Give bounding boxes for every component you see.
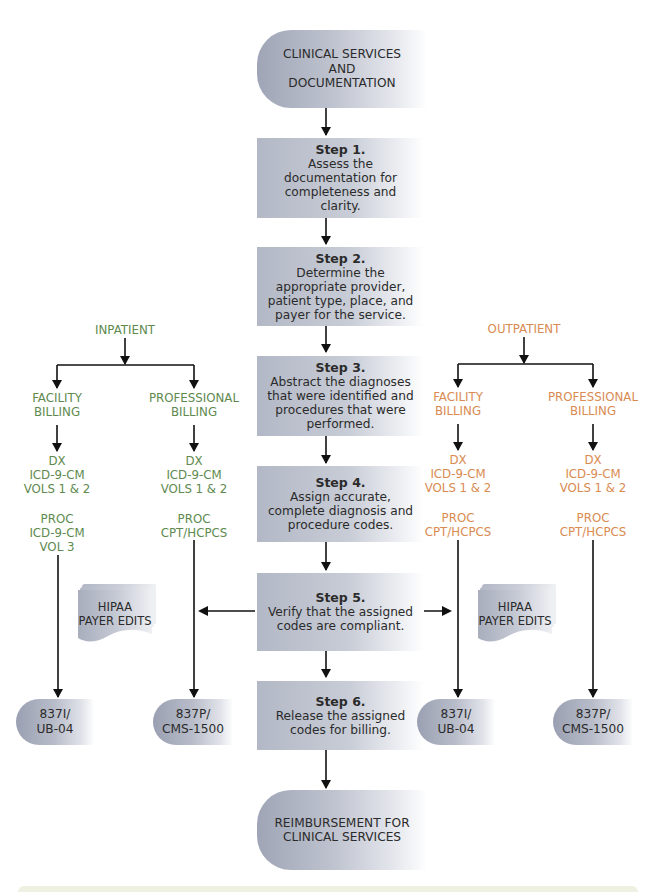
outpatient-837i-ub04-terminal: 837I/ UB-04: [417, 699, 495, 745]
connector-lines: [0, 0, 655, 892]
step-title: Step 5.: [315, 591, 365, 605]
inpatient-facility-dx: DX ICD-9-CM VOLS 1 & 2: [12, 454, 102, 497]
form-line: CMS-1500: [562, 722, 624, 737]
step-text: procedures that were: [275, 403, 405, 417]
end-line: CLINICAL SERVICES: [274, 830, 409, 845]
label-line: CPT/HCPCS: [149, 526, 239, 540]
label-line: FACILITY: [12, 391, 102, 405]
label-line: ICD-9-CM: [12, 468, 102, 482]
start-line: CLINICAL SERVICES: [283, 47, 401, 62]
step-text: performed.: [307, 417, 375, 431]
label-line: DX: [149, 454, 239, 468]
start-terminal: CLINICAL SERVICES AND DOCUMENTATION: [257, 30, 427, 108]
label-line: BILLING: [12, 405, 102, 419]
label-line: BILLING: [144, 405, 244, 419]
step-4-box: Step 4. Assign accurate, complete diagno…: [257, 466, 424, 542]
form-line: 837P/: [162, 707, 224, 722]
form-line: 837P/: [562, 707, 624, 722]
step-text: complete diagnosis and: [268, 504, 413, 518]
bottom-caption-band: [18, 886, 638, 892]
step-text: completeness and: [285, 185, 397, 199]
step-text: that were identified and: [267, 389, 413, 403]
inpatient-professional-dx: DX ICD-9-CM VOLS 1 & 2: [149, 454, 239, 497]
step-title: Step 6.: [315, 695, 365, 709]
step-title: Step 3.: [315, 361, 365, 375]
step-title: Step 1.: [315, 143, 365, 157]
step-text: Abstract the diagnoses: [270, 375, 411, 389]
doc-line: HIPAA: [479, 600, 552, 614]
inpatient-837i-ub04-terminal: 837I/ UB-04: [16, 699, 94, 745]
label-line: PROFESSIONAL: [144, 391, 244, 405]
form-line: UB-04: [36, 722, 73, 737]
step-title: Step 2.: [315, 252, 365, 266]
start-line: AND: [283, 62, 401, 77]
label-line: DX: [548, 453, 638, 467]
step-1-box: Step 1. Assess the documentation for com…: [257, 138, 424, 218]
inpatient-professional-proc: PROC CPT/HCPCS: [149, 512, 239, 540]
label-line: BILLING: [413, 404, 503, 418]
step-title: Step 4.: [315, 476, 365, 490]
step-3-box: Step 3. Abstract the diagnoses that were…: [257, 356, 424, 436]
outpatient-professional-proc: PROC CPT/HCPCS: [548, 511, 638, 539]
label-line: DX: [12, 454, 102, 468]
step-text: codes for billing.: [290, 723, 391, 737]
label-line: FACILITY: [413, 390, 503, 404]
step-text: Verify that the assigned: [268, 605, 413, 619]
label-line: PROC: [12, 512, 102, 526]
label-line: PROC: [149, 512, 239, 526]
label-line: PROFESSIONAL: [543, 390, 643, 404]
outpatient-label: OUTPATIENT: [479, 322, 569, 336]
doc-line: HIPAA: [79, 600, 152, 614]
step-text: patient type, place, and: [268, 294, 414, 308]
step-2-box: Step 2. Determine the appropriate provid…: [257, 247, 424, 326]
label-line: ICD-9-CM: [413, 467, 503, 481]
label-line: DX: [413, 453, 503, 467]
end-line: REIMBURSEMENT FOR: [274, 816, 409, 831]
outpatient-facility-dx: DX ICD-9-CM VOLS 1 & 2: [413, 453, 503, 496]
doc-line: PAYER EDITS: [79, 614, 152, 628]
label-line: VOLS 1 & 2: [12, 482, 102, 496]
step-text: Release the assigned: [276, 709, 406, 723]
form-line: 837I/: [437, 707, 474, 722]
label-line: BILLING: [543, 404, 643, 418]
doc-line: PAYER EDITS: [479, 614, 552, 628]
step-6-box: Step 6. Release the assigned codes for b…: [257, 681, 424, 750]
label-line: ICD-9-CM: [548, 467, 638, 481]
label-line: ICD-9-CM: [12, 526, 102, 540]
inpatient-facility-billing: FACILITY BILLING: [12, 391, 102, 419]
step-text: payer for the service.: [275, 308, 406, 322]
end-terminal: REIMBURSEMENT FOR CLINICAL SERVICES: [257, 790, 427, 870]
outpatient-professional-dx: DX ICD-9-CM VOLS 1 & 2: [548, 453, 638, 496]
form-line: CMS-1500: [162, 722, 224, 737]
form-line: 837I/: [36, 707, 73, 722]
form-line: UB-04: [437, 722, 474, 737]
step-text: procedure codes.: [288, 518, 393, 532]
inpatient-837p-cms1500-terminal: 837P/ CMS-1500: [153, 699, 233, 745]
inpatient-facility-proc: PROC ICD-9-CM VOL 3: [12, 512, 102, 555]
label-line: PROC: [548, 511, 638, 525]
label-line: PROC: [413, 511, 503, 525]
outpatient-hipaa-edits-document: HIPAA PAYER EDITS: [478, 584, 556, 642]
inpatient-professional-billing: PROFESSIONAL BILLING: [144, 391, 244, 419]
step-text: Assess the: [308, 157, 373, 171]
step-text: Determine the: [296, 266, 384, 280]
outpatient-facility-proc: PROC CPT/HCPCS: [413, 511, 503, 539]
step-text: documentation for: [284, 171, 397, 185]
label-line: VOLS 1 & 2: [413, 481, 503, 495]
step-text: appropriate provider,: [276, 280, 406, 294]
label-line: VOLS 1 & 2: [548, 481, 638, 495]
label-line: CPT/HCPCS: [413, 525, 503, 539]
step-text: codes are compliant.: [277, 619, 405, 633]
label-line: CPT/HCPCS: [548, 525, 638, 539]
step-5-box: Step 5. Verify that the assigned codes a…: [257, 573, 424, 651]
start-line: DOCUMENTATION: [283, 76, 401, 91]
label-line: VOL 3: [12, 540, 102, 554]
step-text: clarity.: [320, 199, 360, 213]
inpatient-hipaa-edits-document: HIPAA PAYER EDITS: [78, 584, 156, 642]
label-line: ICD-9-CM: [149, 468, 239, 482]
outpatient-837p-cms1500-terminal: 837P/ CMS-1500: [553, 699, 633, 745]
step-text: Assign accurate,: [290, 490, 391, 504]
inpatient-label: INPATIENT: [85, 323, 165, 337]
outpatient-professional-billing: PROFESSIONAL BILLING: [543, 390, 643, 418]
outpatient-facility-billing: FACILITY BILLING: [413, 390, 503, 418]
